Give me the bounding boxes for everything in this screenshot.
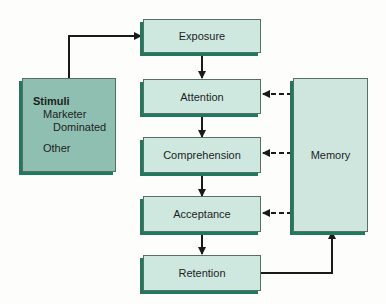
memory-label: Memory	[311, 149, 351, 161]
stimuli-other: Other	[33, 142, 115, 155]
stimuli-dominated: Dominated	[33, 121, 115, 134]
acceptance-box: Acceptance	[143, 196, 261, 232]
stimuli-marketer: Marketer	[33, 108, 115, 121]
arrow-retention-to-memory	[261, 232, 332, 273]
stimuli-title: Stimuli	[33, 95, 115, 108]
exposure-box: Exposure	[143, 19, 261, 53]
comprehension-box: Comprehension	[143, 137, 261, 173]
memory-box: Memory	[293, 78, 368, 232]
exposure-label: Exposure	[179, 30, 225, 42]
attention-box: Attention	[143, 79, 261, 114]
arrow-stimuli-to-exposure	[69, 36, 141, 78]
comprehension-label: Comprehension	[163, 149, 241, 161]
retention-box: Retention	[143, 255, 261, 291]
stimuli-box: Stimuli Marketer Dominated Other	[22, 78, 116, 172]
retention-label: Retention	[178, 267, 225, 279]
attention-label: Attention	[180, 91, 223, 103]
acceptance-label: Acceptance	[173, 208, 230, 220]
